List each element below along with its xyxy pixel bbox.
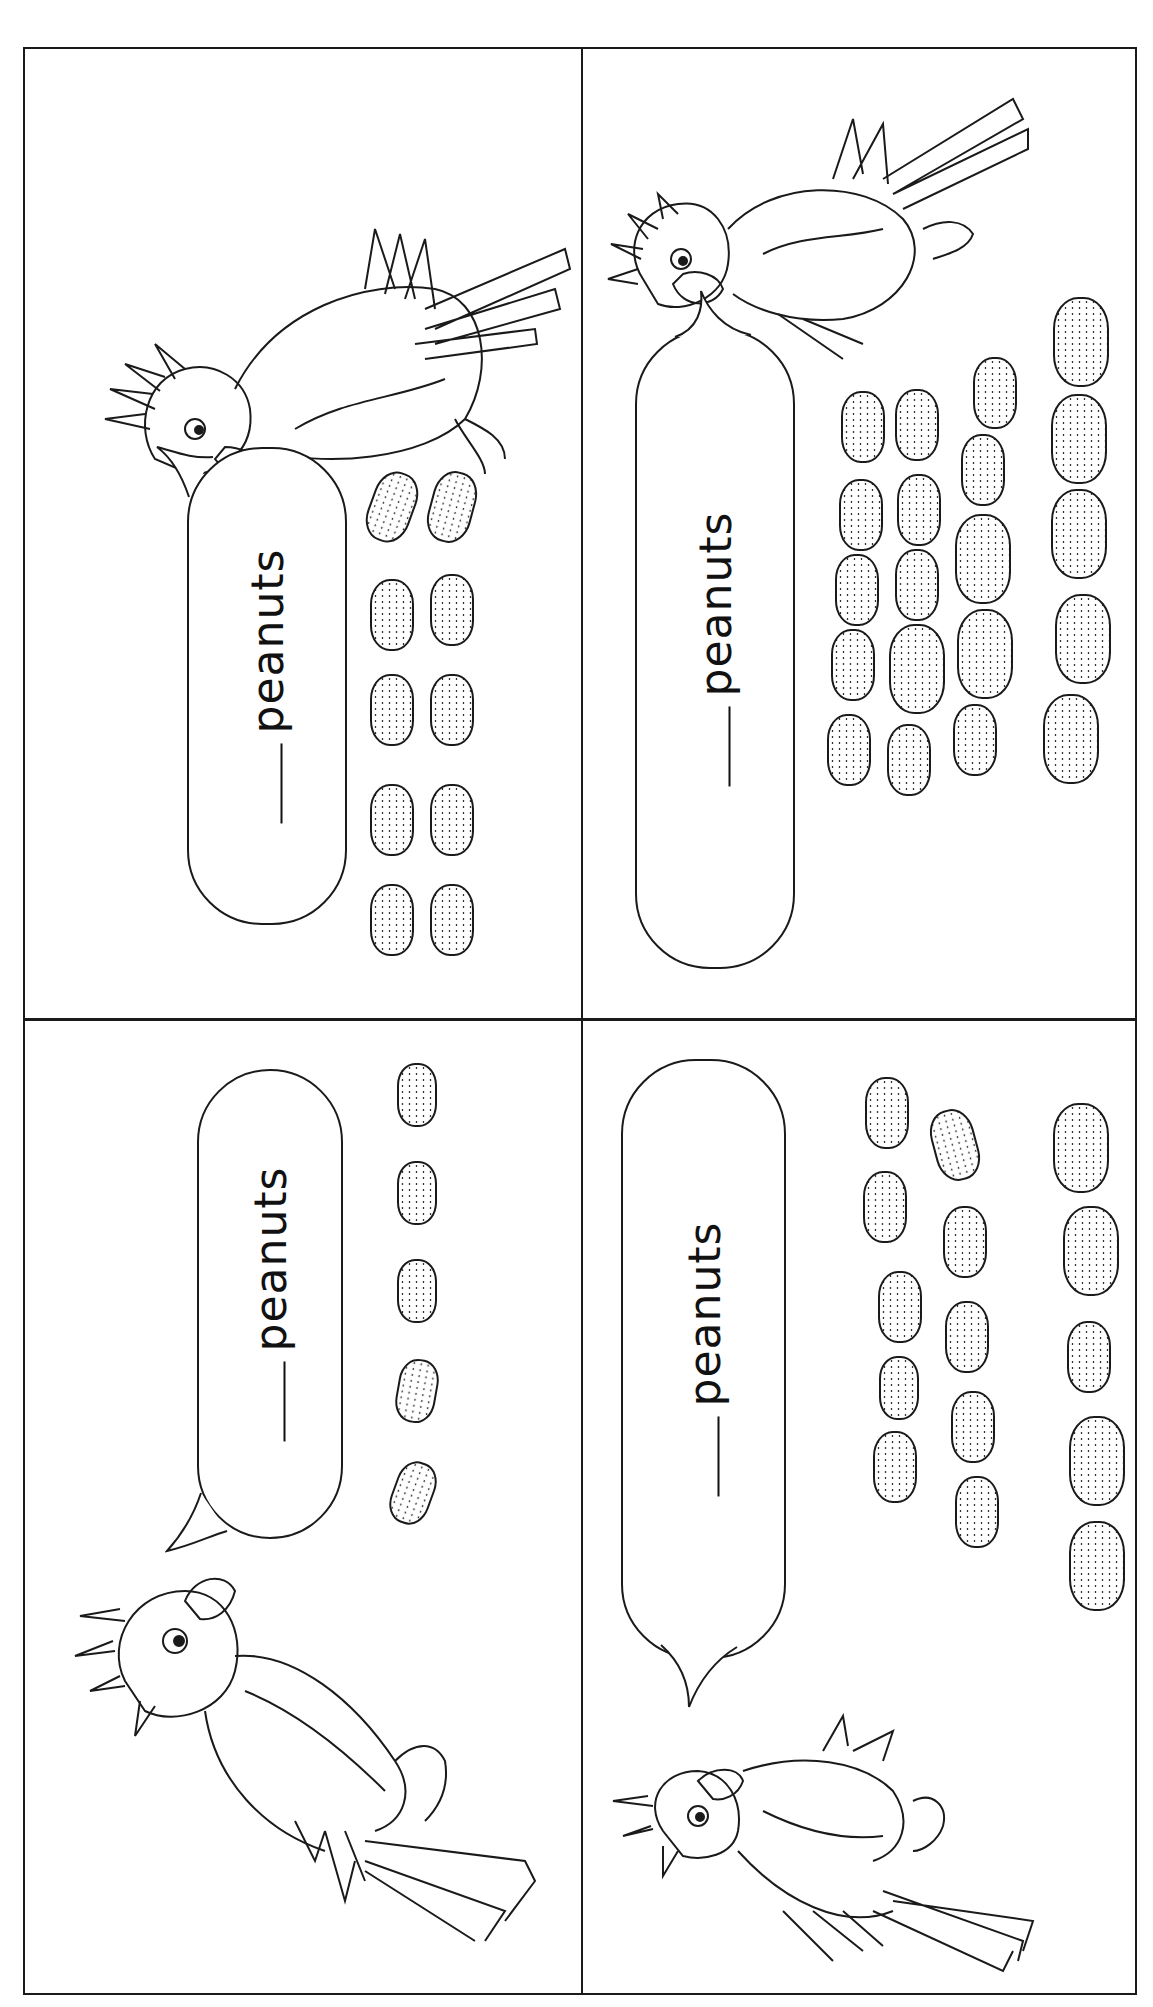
peanut-icon [839,479,883,551]
answer-prompt: peanuts [678,1222,729,1497]
peanut-icon [1051,489,1107,579]
peanut-icon [1069,1416,1125,1506]
peanut-icon [1051,394,1107,484]
peanut-icon [430,674,474,746]
parrot-icon [603,1711,1123,1981]
worksheet-grid: peanuts [23,47,1137,1995]
peanut-icon [955,1476,999,1548]
answer-blank[interactable] [284,1361,286,1441]
peanut-icon [430,574,474,646]
peanut-icon [878,1271,922,1343]
peanut-icon [889,624,945,714]
bubble-tail-icon [673,289,753,339]
peanut-icon [955,514,1011,604]
answer-blank[interactable] [717,1416,719,1496]
peanut-icon [873,1431,917,1503]
peanut-icon [392,1356,443,1426]
peanut-icon [1053,1103,1109,1193]
peanut-icon [383,1456,442,1530]
answer-prompt: peanuts [245,1167,296,1442]
peanut-icon [831,629,875,701]
peanut-icon [895,549,939,621]
peanut-icon [887,724,931,796]
peanut-icon [370,674,414,746]
peanut-icon [835,554,879,626]
bubble-word: peanuts [242,549,293,734]
card-bottom-left: peanuts [25,1021,581,1995]
peanut-icon [397,1259,437,1323]
peanut-icon [370,884,414,956]
peanut-icon [430,784,474,856]
peanut-icon [951,1391,995,1463]
peanut-icon [1053,297,1109,387]
speech-bubble: peanuts [621,1059,786,1659]
peanut-icon [973,357,1017,429]
peanut-icon [895,389,939,461]
answer-prompt: peanuts [690,512,741,787]
peanut-icon [943,1206,987,1278]
bubble-tail-icon [153,429,233,499]
peanut-icon [841,391,885,463]
parrot-icon [65,1561,565,1981]
bubble-word: peanuts [678,1222,729,1407]
bubble-word: peanuts [245,1167,296,1352]
answer-prompt: peanuts [242,549,293,824]
peanut-icon [397,1161,437,1225]
peanut-icon [1069,1521,1125,1611]
peanut-icon [953,704,997,776]
peanut-icon [897,474,941,546]
speech-bubble: peanuts [197,1069,343,1539]
answer-blank[interactable] [729,706,731,786]
peanut-icon [827,714,871,786]
peanut-icon [924,1105,985,1186]
peanut-icon [863,1171,907,1243]
bubble-word: peanuts [690,512,741,697]
peanut-icon [1067,1321,1111,1393]
bubble-tail-icon [165,1491,235,1561]
peanut-icon [370,579,414,651]
parrot-icon [603,69,1043,369]
answer-blank[interactable] [281,743,283,823]
card-top-left: peanuts [25,49,581,1018]
peanut-icon [865,1077,909,1149]
peanut-icon [1055,594,1111,684]
card-top-right: peanuts [583,49,1137,1018]
peanut-icon [430,884,474,956]
speech-bubble: peanuts [635,329,795,969]
card-bottom-right: peanuts [583,1021,1137,1995]
speech-bubble: peanuts [187,447,347,925]
peanut-icon [370,784,414,856]
peanut-icon [397,1063,437,1127]
peanut-icon [1063,1206,1119,1296]
peanut-icon [961,434,1005,506]
peanut-icon [1043,694,1099,784]
peanut-icon [879,1356,919,1420]
parrot-icon [65,129,585,489]
peanut-icon [957,609,1013,699]
bubble-tail-icon [659,1641,739,1711]
peanut-icon [945,1301,989,1373]
